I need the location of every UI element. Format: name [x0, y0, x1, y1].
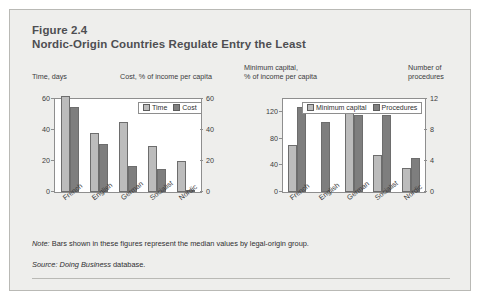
axis-tick-label: 20	[28, 156, 50, 165]
legend-label-time: Time	[152, 104, 167, 111]
axis-tick-label: 20	[206, 156, 214, 165]
legend-swatch-procedures-icon	[373, 104, 380, 111]
bar-series-b	[70, 107, 79, 192]
axis-tick-label: 40	[206, 125, 214, 134]
caption-cost-axis: Cost, % of income per capita	[120, 72, 212, 81]
caption-procedures-axis: Number of procedures	[408, 63, 444, 81]
axis-tick-mark	[200, 98, 203, 99]
axis-tick-label: 80	[256, 134, 278, 143]
caption-min-capital-line1: Minimum capital,	[244, 63, 317, 72]
footer-divider	[32, 278, 450, 279]
bar-series-a	[148, 146, 157, 193]
bar-series-b	[321, 122, 330, 192]
source-text: database.	[111, 260, 146, 269]
bar-series-a	[119, 122, 128, 192]
legend-item-cost: Cost	[173, 104, 196, 111]
axis-tick-label: 60	[28, 94, 50, 103]
note-line: Note: Bars shown in these figures repres…	[32, 239, 309, 248]
caption-time-axis: Time, days	[32, 72, 67, 81]
bar-group	[84, 99, 113, 192]
axis-tick-mark	[51, 160, 54, 161]
axis-tick-mark	[424, 129, 427, 130]
bar-series-a	[90, 133, 99, 192]
figure-panel: Figure 2.4 Nordic-Origin Countries Regul…	[9, 9, 471, 291]
figure-number: Figure 2.4	[32, 24, 87, 36]
legend-swatch-time-icon	[143, 104, 150, 111]
note-text: Bars shown in these figures represent th…	[50, 239, 309, 248]
legend-item-procedures: Procedures	[373, 104, 418, 111]
axis-tick-mark	[279, 191, 282, 192]
note-label: Note:	[32, 239, 50, 248]
caption-min-capital-axis: Minimum capital, % of income per capita	[244, 63, 317, 81]
bar-series-a	[61, 96, 70, 192]
axis-tick-mark	[200, 191, 203, 192]
legend-mincapital-procedures: Minimum capital Procedures	[302, 102, 422, 114]
axis-tick-label: 0	[206, 187, 210, 196]
axis-tick-mark	[51, 129, 54, 130]
caption-procedures-line1: Number of	[408, 63, 444, 72]
axis-tick-mark	[51, 191, 54, 192]
axis-tick-mark	[200, 129, 203, 130]
axis-tick-label: 40	[28, 125, 50, 134]
source-label: Source:	[32, 260, 57, 269]
axis-tick-mark	[279, 164, 282, 165]
source-line: Source: Doing Business database.	[32, 260, 145, 269]
axis-tick-label: 12	[430, 94, 438, 103]
legend-item-min-capital: Minimum capital	[307, 104, 367, 111]
legend-label-procedures: Procedures	[382, 104, 418, 111]
axis-tick-mark	[279, 111, 282, 112]
legend-item-time: Time	[143, 104, 167, 111]
caption-procedures-line2: procedures	[408, 72, 444, 81]
axis-tick-mark	[424, 191, 427, 192]
legend-swatch-cost-icon	[173, 104, 180, 111]
axis-tick-mark	[424, 160, 427, 161]
axis-tick-label: 0	[256, 187, 278, 196]
legend-time-cost: Time Cost	[138, 102, 202, 114]
axis-tick-label: 120	[256, 107, 278, 116]
figure-title: Nordic-Origin Countries Regulate Entry t…	[32, 38, 306, 50]
axis-tick-mark	[279, 138, 282, 139]
axis-tick-label: 0	[430, 187, 434, 196]
bar-group	[55, 99, 84, 192]
axis-tick-label: 4	[430, 156, 434, 165]
axis-tick-label: 60	[206, 94, 214, 103]
legend-swatch-min-capital-icon	[307, 104, 314, 111]
legend-label-cost: Cost	[182, 104, 196, 111]
bar-series-a	[373, 155, 382, 192]
axis-tick-mark	[200, 160, 203, 161]
bar-series-b	[297, 107, 306, 192]
bar-series-a	[345, 112, 354, 192]
axis-tick-label: 40	[256, 160, 278, 169]
axis-tick-label: 8	[430, 125, 434, 134]
axis-tick-label: 0	[28, 187, 50, 196]
source-publication: Doing Business	[57, 260, 110, 269]
axis-tick-mark	[424, 98, 427, 99]
legend-label-min-capital: Minimum capital	[316, 104, 367, 111]
bar-series-a	[288, 145, 297, 192]
axis-tick-mark	[51, 98, 54, 99]
caption-min-capital-line2: % of income per capita	[244, 72, 317, 81]
